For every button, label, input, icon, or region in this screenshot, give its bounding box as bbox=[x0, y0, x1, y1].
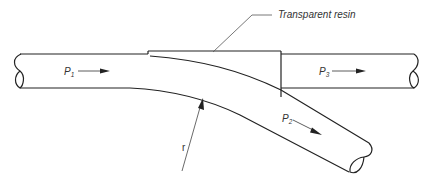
arrow-p2-icon bbox=[310, 128, 322, 136]
flow-p1: P1 bbox=[64, 66, 110, 78]
arrow-p3-icon bbox=[356, 69, 366, 74]
p2-label: P2 bbox=[282, 113, 293, 125]
pipe-break-branch-icon bbox=[350, 143, 372, 173]
arrow-p1-icon bbox=[100, 69, 110, 74]
radius-label: r bbox=[182, 142, 186, 153]
resin-label: Transparent resin bbox=[278, 9, 356, 20]
pipe-break-left-icon bbox=[15, 54, 24, 88]
radius-indicator: r bbox=[182, 98, 204, 171]
flow-p3: P3 bbox=[319, 66, 366, 78]
p3-label: P3 bbox=[319, 66, 330, 78]
branch-pipe-curved bbox=[130, 56, 372, 173]
flow-p2: P2 bbox=[282, 113, 322, 135]
pipe-junction-diagram: Transparent resin P1 P3 P2 r bbox=[0, 0, 431, 182]
pipe-break-right-icon bbox=[410, 54, 419, 88]
p1-label: P1 bbox=[64, 66, 75, 78]
resin-leader bbox=[213, 15, 272, 52]
